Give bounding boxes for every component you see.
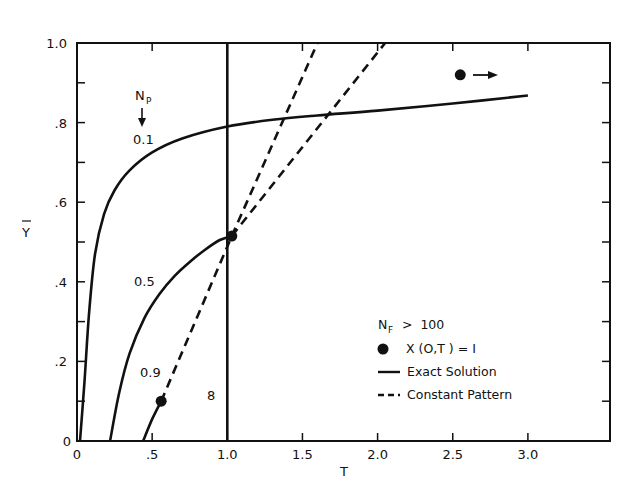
svg-text:N: N [135,88,145,103]
data-points [156,69,466,406]
curve-label-0.9: 0.9 [140,365,161,380]
x-tick-labels: 0.51.01.52.02.53.0 [73,447,538,462]
y-tick-label: .6 [55,195,67,210]
legend-header: N [378,317,387,332]
y-tick-label: .8 [55,116,67,131]
data-point-marker [455,69,466,80]
y-axis-title: T Y [21,221,31,240]
y-tick-label: .2 [55,354,67,369]
x-axis-title: T [339,464,348,479]
constant-pattern-line [232,43,318,236]
y-tick-origin: 0 [63,434,71,449]
offscale-point-arrow [473,71,498,79]
data-point-marker [156,396,167,407]
y-tick-label: .4 [55,275,67,290]
curve-label-inf: 8 [207,388,215,403]
axis-ticks [77,43,610,441]
svg-text:F: F [388,325,393,335]
legend: N F > 100 X (O,T ) = I Exact Solution Co… [378,317,513,402]
curve-label-0.1: 0.1 [133,132,154,147]
constant-pattern-line [232,43,385,236]
x-tick-label: 3.0 [518,447,539,462]
x-tick-label: .5 [146,447,158,462]
curve-label-0.5: 0.5 [134,274,155,289]
chart: 0.51.01.52.02.53.0 .2.4.6.81.0 T T Y 0 N… [0,0,643,493]
svg-text:> 100: > 100 [398,317,444,332]
exact-solution-curve [110,236,232,441]
np-annotation: N P [135,88,152,127]
x-tick-label: 0 [73,447,81,462]
legend-solid-label: Exact Solution [407,364,497,379]
data-point-marker [226,231,237,242]
x-tick-label: 2.5 [442,447,463,462]
legend-dashed-label: Constant Pattern [407,387,512,402]
legend-dot-label: X (O,T ) = I [406,341,476,356]
x-tick-label: 2.0 [367,447,388,462]
legend-dot-marker [378,344,389,355]
y-axis-title-text: Y [21,225,30,240]
svg-text:P: P [146,96,152,106]
plot-frame [77,43,610,441]
constant-pattern-line [161,236,232,401]
x-tick-label: 1.5 [292,447,313,462]
y-tick-labels: .2.4.6.81.0 [46,36,67,369]
x-tick-label: 1.0 [217,447,238,462]
y-tick-label: 1.0 [46,36,67,51]
